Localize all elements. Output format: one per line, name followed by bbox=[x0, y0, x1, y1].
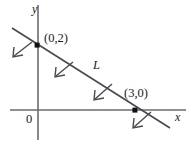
direction-arrow-1 bbox=[13, 42, 32, 57]
y-axis-label: y bbox=[32, 3, 37, 15]
direction-arrow-2 bbox=[55, 62, 73, 77]
point-marker-3-0 bbox=[132, 108, 137, 113]
line-label-L: L bbox=[93, 59, 100, 72]
point-label-3-0: (3,0) bbox=[124, 87, 148, 100]
direction-arrow-group bbox=[13, 42, 151, 128]
line-diagram-figure: y x 0 (0,2) (3,0) L bbox=[0, 0, 196, 146]
point-label-0-2: (0,2) bbox=[44, 32, 68, 45]
direction-arrow-4 bbox=[133, 112, 151, 128]
origin-label: 0 bbox=[26, 113, 32, 126]
point-marker-0-2 bbox=[35, 43, 40, 48]
x-axis-label: x bbox=[175, 111, 180, 123]
